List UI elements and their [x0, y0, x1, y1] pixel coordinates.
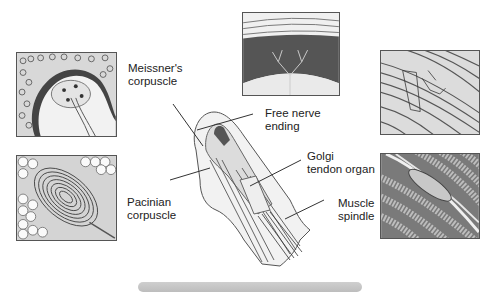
pacinian-corpuscle-label: Pacinian corpuscle — [127, 196, 176, 222]
muscle-spindle-label: Muscle spindle — [338, 197, 374, 223]
golgi-tendon-organ-label: Golgi tendon organ — [307, 150, 375, 176]
free-nerve-ending-label: Free nerve ending — [265, 107, 321, 133]
meissner-corpuscle-label: Meissner's corpuscle — [128, 62, 183, 88]
caption-bar — [138, 282, 362, 292]
